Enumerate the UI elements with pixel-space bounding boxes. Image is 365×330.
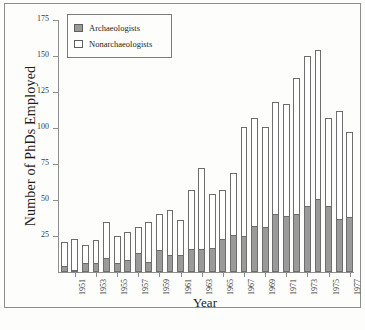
bar-segment-archaeologists[interactable] xyxy=(167,255,174,272)
bar-segment-archaeologists[interactable] xyxy=(188,249,195,272)
bar-segment-archaeologists[interactable] xyxy=(145,262,152,272)
x-axis-tick-label: 1969 xyxy=(268,279,277,295)
x-axis-tick-label: 1963 xyxy=(205,279,214,295)
legend-item-nonarchaeologists: Nonarchaeologists xyxy=(74,36,165,52)
x-axis-tick xyxy=(244,273,245,277)
x-axis-tick-label: 1977 xyxy=(353,279,362,295)
bar-group[interactable] xyxy=(177,20,184,272)
y-axis-tick: 100 xyxy=(53,128,59,129)
bar-segment-archaeologists[interactable] xyxy=(156,250,163,272)
y-axis-tick: 175 xyxy=(53,20,59,21)
bar-segment-archaeologists[interactable] xyxy=(209,248,216,272)
bar-segment-archaeologists[interactable] xyxy=(230,235,237,272)
bar-segment-nonarchaeologists[interactable] xyxy=(71,239,78,272)
bar-group[interactable] xyxy=(188,20,195,272)
y-axis-title: Number of PhDs Employed xyxy=(23,36,39,256)
figure-container: Number of PhDs Employed Year 25507510012… xyxy=(0,0,365,330)
bar-segment-archaeologists[interactable] xyxy=(315,199,322,272)
x-axis-tick xyxy=(307,273,308,277)
bar-segment-archaeologists[interactable] xyxy=(304,206,311,272)
bar-group[interactable] xyxy=(293,20,300,272)
bar-segment-archaeologists[interactable] xyxy=(293,214,300,272)
bar-group[interactable] xyxy=(315,20,322,272)
bar-group[interactable] xyxy=(336,20,343,272)
y-axis-tick: 75 xyxy=(53,164,59,165)
bar-segment-archaeologists[interactable] xyxy=(114,263,121,272)
bar-segment-archaeologists[interactable] xyxy=(262,227,269,272)
x-axis-tick xyxy=(350,273,351,277)
x-axis-tick xyxy=(75,273,76,277)
bar-segment-archaeologists[interactable] xyxy=(272,214,279,272)
bar-segment-archaeologists[interactable] xyxy=(61,266,68,272)
y-axis-tick-label: 75 xyxy=(41,158,49,167)
x-axis-tick xyxy=(286,273,287,277)
x-axis-tick-label: 1955 xyxy=(120,279,129,295)
legend-swatch-icon-archaeologists xyxy=(74,24,83,32)
bar-group[interactable] xyxy=(219,20,226,272)
legend-label-nonarchaeologists: Nonarchaeologists xyxy=(89,39,152,49)
bar-segment-archaeologists[interactable] xyxy=(124,260,131,272)
bar-group[interactable] xyxy=(304,20,311,272)
bar-segment-archaeologists[interactable] xyxy=(283,216,290,272)
x-axis-tick-label: 1961 xyxy=(184,279,193,295)
bar-segment-archaeologists[interactable] xyxy=(135,253,142,272)
bar-segment-archaeologists[interactable] xyxy=(103,258,110,272)
x-axis-tick xyxy=(202,273,203,277)
y-axis-tick-label: 125 xyxy=(37,86,49,95)
y-axis-tick: 125 xyxy=(53,92,59,93)
x-axis-title: Year xyxy=(55,295,355,311)
bar-group[interactable] xyxy=(272,20,279,272)
x-axis-tick-label: 1957 xyxy=(141,279,150,295)
x-axis-tick-label: 1959 xyxy=(162,279,171,295)
bar-group[interactable] xyxy=(230,20,237,272)
bar-segment-archaeologists[interactable] xyxy=(346,217,353,272)
y-axis-tick-label: 175 xyxy=(37,14,49,23)
bar-group[interactable] xyxy=(346,20,353,272)
x-axis-tick-label: 1975 xyxy=(332,279,341,295)
x-axis-tick xyxy=(329,273,330,277)
x-axis-line xyxy=(58,272,354,273)
y-axis-tick: 25 xyxy=(53,236,59,237)
y-axis-tick-label: 150 xyxy=(37,50,49,59)
x-axis-tick-label: 1973 xyxy=(310,279,319,295)
bar-segment-archaeologists[interactable] xyxy=(82,263,89,272)
legend-swatch-icon-nonarchaeologists xyxy=(74,40,83,48)
x-axis-tick xyxy=(96,273,97,277)
bar-segment-archaeologists[interactable] xyxy=(93,263,100,272)
y-axis-tick-label: 100 xyxy=(37,122,49,131)
x-axis-tick xyxy=(117,273,118,277)
x-axis-tick-label: 1971 xyxy=(289,279,298,295)
legend-item-archaeologists: Archaeologists xyxy=(74,20,165,36)
bar-segment-archaeologists[interactable] xyxy=(71,270,78,272)
x-axis-tick xyxy=(159,273,160,277)
x-axis-tick-label: 1951 xyxy=(78,279,87,295)
x-axis-tick xyxy=(138,273,139,277)
bar-segment-archaeologists[interactable] xyxy=(325,206,332,272)
y-axis-tick-label: 25 xyxy=(41,230,49,239)
y-axis-line xyxy=(58,20,59,272)
y-axis-tick-label: 50 xyxy=(41,194,49,203)
bar-segment-archaeologists[interactable] xyxy=(219,239,226,272)
x-axis-tick xyxy=(223,273,224,277)
bar-group[interactable] xyxy=(209,20,216,272)
bar-group[interactable] xyxy=(241,20,248,272)
x-axis-tick xyxy=(181,273,182,277)
x-axis-tick-label: 1967 xyxy=(247,279,256,295)
bar-group[interactable] xyxy=(251,20,258,272)
y-axis-tick: 50 xyxy=(53,200,59,201)
bar-group[interactable] xyxy=(283,20,290,272)
legend-label-archaeologists: Archaeologists xyxy=(89,23,140,33)
bar-group[interactable] xyxy=(325,20,332,272)
x-axis-tick-label: 1953 xyxy=(99,279,108,295)
bar-segment-archaeologists[interactable] xyxy=(336,219,343,272)
x-axis-tick xyxy=(265,273,266,277)
x-axis-tick-label: 1965 xyxy=(226,279,235,295)
y-axis-tick: 150 xyxy=(53,56,59,57)
chart-legend: Archaeologists Nonarchaeologists xyxy=(67,14,172,58)
bar-group[interactable] xyxy=(198,20,205,272)
bar-group[interactable] xyxy=(262,20,269,272)
bar-segment-archaeologists[interactable] xyxy=(198,249,205,272)
bar-segment-archaeologists[interactable] xyxy=(241,236,248,272)
bar-segment-archaeologists[interactable] xyxy=(177,255,184,272)
bar-segment-archaeologists[interactable] xyxy=(251,226,258,272)
